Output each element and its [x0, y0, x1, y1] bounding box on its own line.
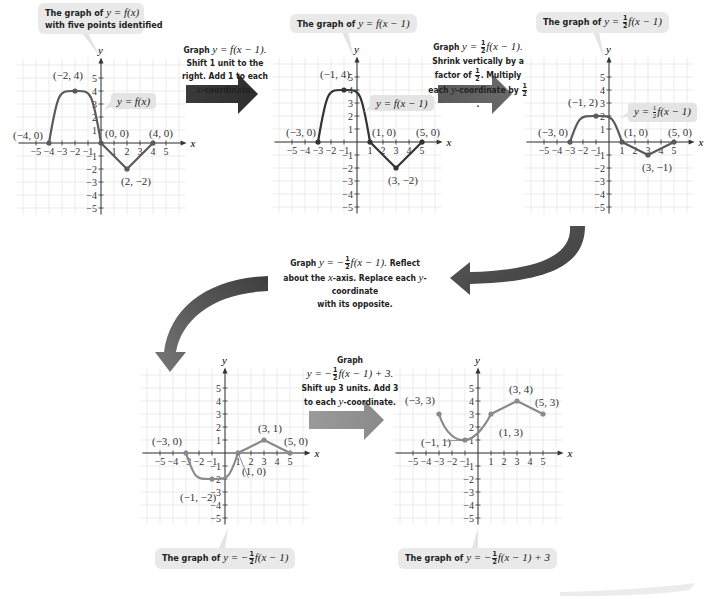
y-axis-arrow-icon	[607, 56, 612, 62]
y-tick-label: −4	[463, 500, 474, 511]
step3-line2-mid: -axis. Replace each	[333, 273, 419, 283]
y-tick-label: −4	[86, 190, 97, 201]
graph-5: xy−5−4−3−2−11234554321−1−2−3−4−5(−3, 3)(…	[394, 354, 573, 548]
graph3-title-frac: 12	[623, 15, 627, 30]
plotted-point	[393, 165, 398, 170]
y-tick-label: 1	[600, 124, 605, 135]
graph4-title-math-post: f(x − 1)	[255, 551, 289, 563]
y-tick-label: 3	[469, 409, 474, 420]
point-label: (3, −2)	[388, 174, 418, 187]
callout-tail	[472, 528, 478, 548]
frac-den: 2	[492, 559, 496, 566]
y-tick-label: −3	[86, 177, 97, 188]
step2-line3-pre: factor of	[435, 70, 475, 80]
graph4-title-frac: 12	[249, 551, 253, 566]
plotted-point	[671, 139, 676, 144]
y-tick-label: 2	[216, 422, 221, 433]
graph2-title-math: y = f(x − 1)	[358, 17, 410, 29]
point-label: (1, 3)	[499, 426, 523, 439]
frac-den: 2	[475, 76, 479, 83]
y-tick-label: 4	[92, 86, 97, 97]
curved-arrow-right-icon	[450, 226, 585, 295]
x-tick-label: 5	[672, 145, 677, 156]
graph5-title-callout: The graph of y = −12f(x − 1) + 3	[398, 548, 557, 569]
step4-eq-post: f(x − 1) + 3.	[338, 367, 393, 379]
graph1-title-line2: with five points identified	[45, 19, 137, 31]
x-tick-label: 4	[151, 146, 156, 157]
point-label: (3, 1)	[258, 422, 282, 435]
graph5-title-prefix: The graph of	[405, 553, 466, 563]
graph4-title-math-pre: y = −	[223, 551, 248, 563]
y-tick-label: −5	[594, 202, 605, 213]
y-tick-label: 3	[216, 409, 221, 420]
y-axis-arrow-icon	[223, 367, 228, 373]
graph5-title-math-post: f(x − 1) + 3	[498, 551, 550, 563]
graph3-curve-label-pre: y =	[634, 105, 652, 117]
step2-description: Graph y = 12f(x − 1). Shrink vertically …	[428, 40, 528, 111]
plotted-point	[261, 437, 266, 442]
x-tick-label: 5	[164, 146, 169, 157]
y-axis-arrow-icon	[355, 56, 360, 62]
point-label: (3, −1)	[642, 161, 672, 174]
graph2-title-prefix: The graph of	[297, 19, 358, 29]
y-tick-label: −1	[86, 151, 97, 162]
frac-den: 2	[249, 559, 253, 566]
plotted-point	[367, 139, 372, 144]
x-tick-label: 1	[489, 456, 494, 467]
x-tick-label: −2	[326, 145, 337, 156]
y-axis-label: y	[605, 43, 611, 55]
step2-frac-c: 12	[522, 83, 526, 98]
step4-line4-pre: to each	[304, 397, 339, 407]
y-tick-label: 3	[600, 98, 605, 109]
x-tick-label: −2	[447, 456, 458, 467]
x-tick-label: −5	[155, 456, 166, 467]
graph3-title-math-post: f(x − 1)	[628, 15, 662, 27]
plotted-point	[315, 139, 320, 144]
plotted-point	[619, 139, 624, 144]
graph-2: xy−5−4−3−2−11234554321−1−2−3−4−5(−3, 0)(…	[273, 32, 452, 214]
step3-description: Graph y = −12f(x − 1). Reflect about the…	[265, 256, 445, 311]
point-label: (−1, 2)	[568, 96, 598, 109]
plotted-point	[150, 140, 155, 145]
step1-equation: y = f(x − 1).	[212, 43, 266, 55]
y-tick-label: 2	[348, 111, 353, 122]
graph3-curve-label-frac: 12	[653, 105, 657, 120]
x-tick-label: −5	[31, 146, 42, 157]
y-axis-label: y	[97, 44, 103, 56]
point-label: (−3, 0)	[152, 435, 182, 448]
plotted-point	[72, 88, 77, 93]
plotted-point	[209, 476, 214, 481]
point-label: (−3, 0)	[538, 126, 568, 139]
y-tick-label: −3	[594, 176, 605, 187]
x-tick-label: 2	[125, 146, 130, 157]
x-tick-label: 2	[502, 456, 507, 467]
y-tick-label: −1	[594, 150, 605, 161]
point-label: (5, 0)	[668, 126, 692, 139]
plotted-point	[46, 140, 51, 145]
graph5-title-math-pre: y = −	[466, 551, 491, 563]
point-label: (−3, 3)	[405, 394, 435, 407]
point-label: (−2, 4)	[53, 69, 83, 82]
step3-graph-word: Graph	[290, 258, 319, 268]
step2-graph-word: Graph	[433, 42, 462, 52]
transformation-diagram: xy−5−4−3−2−11234554321−1−2−3−4−5(−4, 0)(…	[0, 0, 712, 599]
step2-eq-post: f(x − 1).	[486, 40, 522, 52]
y-tick-label: 5	[92, 73, 97, 84]
step1-graph-word: Graph	[183, 45, 212, 55]
plotted-point	[287, 450, 292, 455]
x-tick-label: −3	[565, 145, 576, 156]
graph5-title-frac: 12	[492, 551, 496, 566]
y-tick-label: 5	[600, 72, 605, 83]
y-tick-label: −5	[463, 513, 474, 524]
x-tick-label: 1	[368, 145, 373, 156]
y-axis-label: y	[474, 354, 480, 366]
step2-eq-pre: y =	[462, 40, 480, 52]
plotted-point	[567, 139, 572, 144]
callout-tail	[593, 32, 604, 58]
graph3-title-math-pre: y =	[604, 15, 622, 27]
x-tick-label: −4	[300, 145, 311, 156]
step4-frac: 12	[333, 367, 337, 382]
graph1-title-callout: The graph of y = f(x) with five points i…	[38, 3, 144, 34]
y-tick-label: −2	[86, 164, 97, 175]
x-tick-label: −3	[313, 145, 324, 156]
